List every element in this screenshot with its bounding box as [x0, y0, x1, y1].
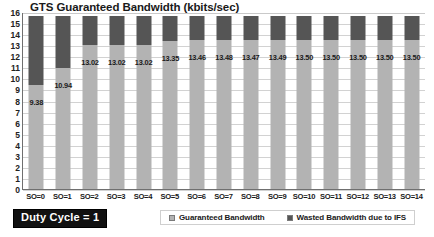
legend-swatch-icon [169, 215, 175, 221]
legend-label: Wasted Bandwidth due to IFS [297, 213, 406, 222]
y-axis-tick-label: 2 [2, 164, 20, 173]
bar-data-label: 13.50 [322, 53, 340, 62]
stacked-bar[interactable] [82, 16, 97, 189]
bar-data-label: 13.50 [349, 53, 367, 62]
x-axis-tick-label: SO=9 [264, 192, 291, 206]
bar-segment-wasted-bandwidth[interactable] [377, 16, 392, 39]
y-axis-tick-label: 1 [2, 175, 20, 184]
y-axis-tick-label: 3 [2, 153, 20, 162]
x-axis: SO=0SO=1SO=2SO=3SO=4SO=5SO=6SO=7SO=8SO=9… [22, 192, 425, 206]
legend-swatch-icon [287, 215, 293, 221]
bar-data-label: 10.94 [54, 81, 72, 90]
bar-data-label: 13.35 [162, 54, 180, 63]
stacked-bar[interactable] [270, 16, 285, 189]
bar-data-label: 9.38 [30, 98, 44, 107]
x-axis-tick-label: SO=11 [317, 192, 344, 206]
bar-segment-guaranteed-bandwidth[interactable] [243, 40, 258, 189]
bar-segment-guaranteed-bandwidth[interactable] [270, 40, 285, 189]
gridline [23, 190, 425, 191]
y-axis-tick-label: 8 [2, 97, 20, 106]
bar-segment-wasted-bandwidth[interactable] [163, 16, 178, 41]
bar-segment-wasted-bandwidth[interactable] [270, 16, 285, 39]
y-axis-tick-label: 10 [2, 75, 20, 84]
bar-segment-guaranteed-bandwidth[interactable] [377, 40, 392, 189]
stacked-bar[interactable] [56, 16, 71, 189]
bar-data-label: 13.48 [215, 53, 233, 62]
bar-segment-guaranteed-bandwidth[interactable] [190, 40, 205, 189]
plot-area: 9.3810.9413.0213.0213.0213.3513.4613.481… [22, 13, 425, 190]
bar-series-group: 9.3810.9413.0213.0213.0213.3513.4613.481… [23, 13, 425, 189]
bar-slot[interactable]: 9.38 [23, 13, 50, 189]
bar-segment-wasted-bandwidth[interactable] [190, 16, 205, 40]
bar-segment-guaranteed-bandwidth[interactable] [216, 40, 231, 189]
bar-slot[interactable]: 13.50 [371, 13, 398, 189]
stacked-bar[interactable] [136, 16, 151, 189]
bar-segment-wasted-bandwidth[interactable] [324, 16, 339, 39]
x-axis-tick-label: SO=1 [49, 192, 76, 206]
bar-segment-guaranteed-bandwidth[interactable] [324, 40, 339, 189]
bar-segment-wasted-bandwidth[interactable] [56, 16, 71, 68]
legend-label: Guaranteed Bandwidth [179, 213, 265, 222]
bar-segment-wasted-bandwidth[interactable] [136, 16, 151, 45]
bar-slot[interactable]: 13.49 [264, 13, 291, 189]
stacked-bar[interactable] [243, 16, 258, 189]
bar-slot[interactable]: 13.50 [345, 13, 372, 189]
x-axis-tick-label: SO=7 [210, 192, 237, 206]
y-axis-tick-label: 7 [2, 108, 20, 117]
bar-segment-wasted-bandwidth[interactable] [297, 16, 312, 39]
stacked-bar[interactable] [377, 16, 392, 189]
duty-cycle-badge: Duty Cycle = 1 [13, 209, 107, 228]
x-axis-tick-label: SO=6 [183, 192, 210, 206]
stacked-bar[interactable] [190, 16, 205, 189]
chart-title: GTS Guaranteed Bandwidth (kbits/sec) [30, 1, 239, 13]
bar-segment-wasted-bandwidth[interactable] [82, 16, 97, 45]
bar-slot[interactable]: 13.50 [291, 13, 318, 189]
stacked-bar[interactable] [350, 16, 365, 189]
bar-slot[interactable]: 13.35 [157, 13, 184, 189]
bar-segment-guaranteed-bandwidth[interactable] [404, 40, 419, 189]
bar-data-label: 13.02 [108, 58, 126, 67]
bar-data-label: 13.49 [269, 53, 287, 62]
bar-slot[interactable]: 13.02 [130, 13, 157, 189]
bar-segment-wasted-bandwidth[interactable] [216, 16, 231, 39]
y-axis-tick-label: 4 [2, 142, 20, 151]
bar-slot[interactable]: 10.94 [50, 13, 77, 189]
y-axis-tick-label: 13 [2, 42, 20, 51]
x-axis-tick-label: SO=3 [103, 192, 130, 206]
bar-data-label: 13.46 [188, 53, 206, 62]
bar-slot[interactable]: 13.47 [237, 13, 264, 189]
bar-segment-guaranteed-bandwidth[interactable] [350, 40, 365, 189]
bar-segment-wasted-bandwidth[interactable] [243, 16, 258, 40]
stacked-bar[interactable] [163, 16, 178, 189]
bar-slot[interactable]: 13.48 [211, 13, 238, 189]
bar-segment-guaranteed-bandwidth[interactable] [163, 41, 178, 189]
y-axis-tick-label: 12 [2, 53, 20, 62]
stacked-bar[interactable] [404, 16, 419, 189]
bar-slot[interactable]: 13.02 [77, 13, 104, 189]
y-axis-tick-label: 15 [2, 20, 20, 29]
x-axis-tick-label: SO=14 [398, 192, 425, 206]
bar-segment-wasted-bandwidth[interactable] [109, 16, 124, 45]
stacked-bar[interactable] [297, 16, 312, 189]
stacked-bar[interactable] [216, 16, 231, 189]
bar-slot[interactable]: 13.50 [318, 13, 345, 189]
chart-screenshot: GTS Guaranteed Bandwidth (kbits/sec) 161… [0, 0, 434, 237]
bar-segment-wasted-bandwidth[interactable] [29, 16, 44, 85]
bar-data-label: 13.02 [81, 58, 99, 67]
y-axis-tick-label: 5 [2, 130, 20, 139]
bar-slot[interactable]: 13.02 [103, 13, 130, 189]
bar-slot[interactable]: 13.50 [398, 13, 425, 189]
legend-item[interactable]: Guaranteed Bandwidth [169, 213, 265, 222]
stacked-bar[interactable] [109, 16, 124, 189]
bar-data-label: 13.02 [135, 58, 153, 67]
y-axis: 161514131211109876543210 [0, 13, 20, 190]
bar-segment-guaranteed-bandwidth[interactable] [297, 40, 312, 189]
x-axis-tick-label: SO=12 [344, 192, 371, 206]
bar-slot[interactable]: 13.46 [184, 13, 211, 189]
y-axis-tick-label: 14 [2, 31, 20, 40]
bar-segment-wasted-bandwidth[interactable] [350, 16, 365, 39]
x-axis-tick-label: SO=2 [76, 192, 103, 206]
bar-segment-wasted-bandwidth[interactable] [404, 16, 419, 39]
legend-item[interactable]: Wasted Bandwidth due to IFS [287, 213, 406, 222]
stacked-bar[interactable] [324, 16, 339, 189]
